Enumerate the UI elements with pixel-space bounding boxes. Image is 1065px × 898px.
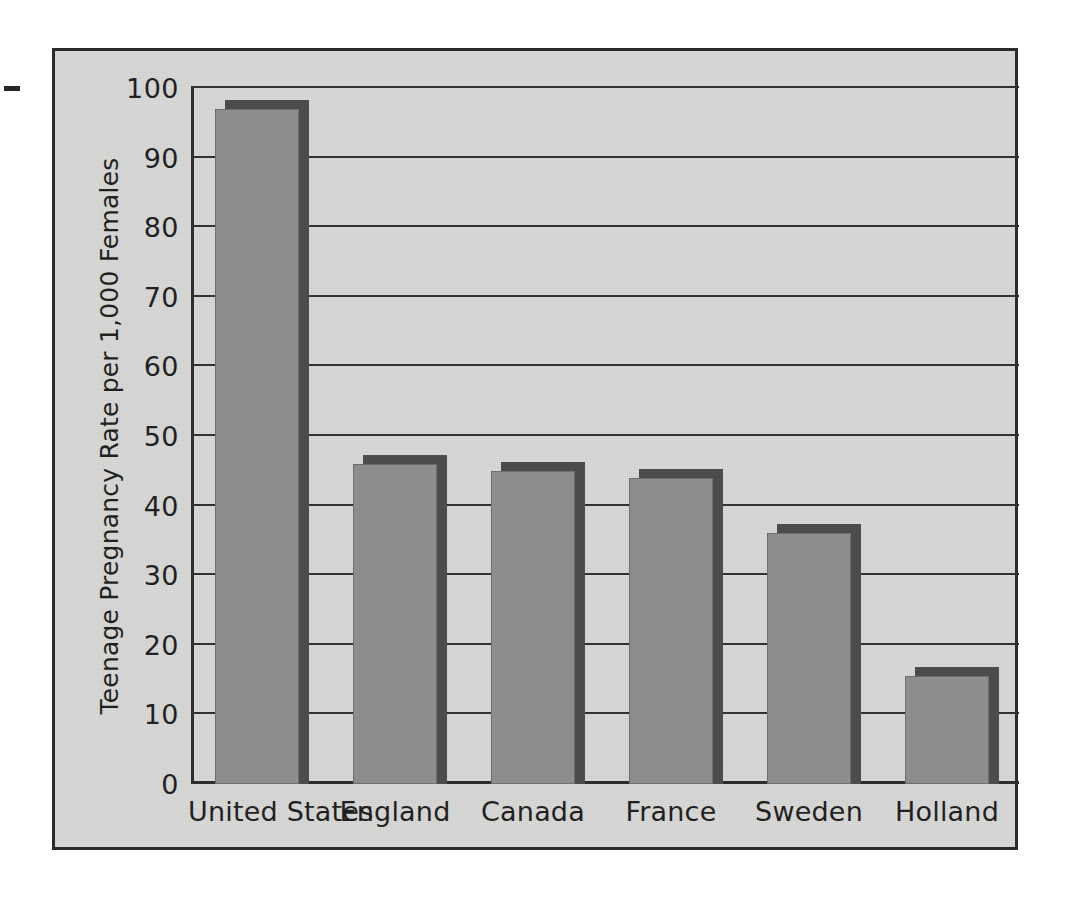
bar-group: Sweden bbox=[767, 88, 851, 784]
y-tick-label-90: 90 bbox=[144, 142, 179, 173]
x-tick-label-holland: Holland bbox=[878, 796, 1016, 827]
bar-holland[interactable] bbox=[905, 676, 989, 784]
bar-united-states[interactable] bbox=[215, 109, 299, 784]
y-tick-label-0: 0 bbox=[161, 769, 179, 800]
bar-group: Canada bbox=[491, 88, 575, 784]
y-tick-label-70: 70 bbox=[144, 281, 179, 312]
y-tick-label-60: 60 bbox=[144, 351, 179, 382]
y-tick-label-30: 30 bbox=[144, 560, 179, 591]
bar-group: United States bbox=[215, 88, 299, 784]
figure-frame: Teenage Pregnancy Rate per 1,000 Females… bbox=[52, 48, 1018, 850]
y-tick-label-40: 40 bbox=[144, 490, 179, 521]
x-tick-label-canada: Canada bbox=[464, 796, 602, 827]
y-tick-label-80: 80 bbox=[144, 212, 179, 243]
bar-chart: Teenage Pregnancy Rate per 1,000 Females… bbox=[191, 88, 1019, 784]
bar-sweden[interactable] bbox=[767, 533, 851, 784]
y-tick-label-50: 50 bbox=[144, 421, 179, 452]
bar-canada[interactable] bbox=[491, 471, 575, 784]
y-axis-title: Teenage Pregnancy Rate per 1,000 Females bbox=[95, 158, 124, 715]
y-tick-label-10: 10 bbox=[144, 699, 179, 730]
x-tick-label-united-states: United States bbox=[188, 796, 326, 827]
y-tick-label-100: 100 bbox=[126, 73, 179, 104]
margin-dash-mark bbox=[4, 86, 20, 91]
bar-group: Holland bbox=[905, 88, 989, 784]
plot-area: 0102030405060708090100 United StatesEngl… bbox=[191, 88, 1019, 784]
bar-england[interactable] bbox=[353, 464, 437, 784]
x-tick-label-england: England bbox=[326, 796, 464, 827]
bar-series: United StatesEnglandCanadaFranceSwedenHo… bbox=[191, 88, 1019, 784]
y-tick-label-20: 20 bbox=[144, 629, 179, 660]
bar-group: France bbox=[629, 88, 713, 784]
bar-group: England bbox=[353, 88, 437, 784]
x-tick-label-france: France bbox=[602, 796, 740, 827]
bar-france[interactable] bbox=[629, 478, 713, 784]
x-tick-label-sweden: Sweden bbox=[740, 796, 878, 827]
